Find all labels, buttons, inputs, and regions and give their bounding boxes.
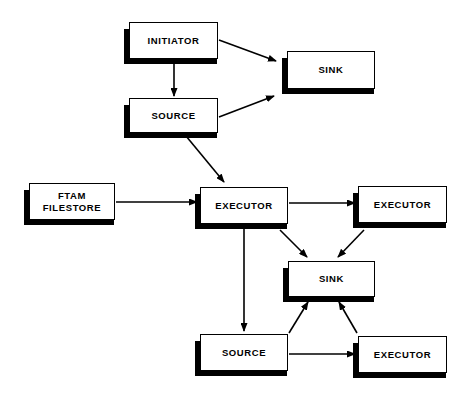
edge-initiator-to-sink-top <box>219 40 276 61</box>
node-label-executor-right: EXECUTOR <box>374 199 431 211</box>
node-sink-top[interactable]: SINK <box>287 51 375 89</box>
node-label-executor-mid: EXECUTOR <box>215 200 272 212</box>
edge-executor-mid-to-sink-bottom <box>280 230 307 257</box>
node-label-initiator: INITIATOR <box>147 35 199 47</box>
edge-source-top-to-executor-mid <box>186 136 224 182</box>
node-label-sink-top: SINK <box>318 64 343 76</box>
node-label-source-top: SOURCE <box>151 110 195 122</box>
node-label-sink-bottom: SINK <box>319 273 344 285</box>
node-executor-mid[interactable]: EXECUTOR <box>200 187 288 224</box>
node-sink-bottom[interactable]: SINK <box>288 261 375 297</box>
diagram-canvas: INITIATORSINKSOURCEFTAM FILESTOREEXECUTO… <box>0 0 472 400</box>
edge-source-top-to-sink-top <box>219 96 274 117</box>
edge-executor-right-to-sink-bottom <box>338 230 364 257</box>
node-ftam-filestore[interactable]: FTAM FILESTORE <box>29 183 115 220</box>
node-source-top[interactable]: SOURCE <box>129 98 218 133</box>
node-initiator[interactable]: INITIATOR <box>129 22 218 59</box>
edge-source-bottom-to-sink-bottom <box>289 302 308 333</box>
edge-executor-bottom-to-sink-bottom <box>339 302 357 333</box>
node-source-bottom[interactable]: SOURCE <box>200 334 288 371</box>
node-executor-bottom[interactable]: EXECUTOR <box>358 336 447 373</box>
node-label-ftam-filestore: FTAM FILESTORE <box>43 190 102 214</box>
node-label-source-bottom: SOURCE <box>222 347 266 359</box>
node-label-executor-bottom: EXECUTOR <box>374 349 431 361</box>
node-executor-right[interactable]: EXECUTOR <box>358 186 447 223</box>
